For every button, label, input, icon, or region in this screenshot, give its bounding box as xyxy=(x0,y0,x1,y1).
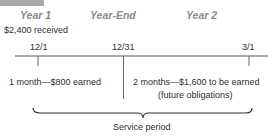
timeline-graphic xyxy=(0,0,280,137)
unearned-segment-label: 2 months—$1,600 to be earned xyxy=(133,77,260,87)
earned-segment-label: 1 month—$800 earned xyxy=(9,77,101,87)
future-obligations-label: (future obligations) xyxy=(158,90,233,100)
service-period-brace xyxy=(33,108,252,118)
service-period-label: Service period xyxy=(113,122,171,132)
